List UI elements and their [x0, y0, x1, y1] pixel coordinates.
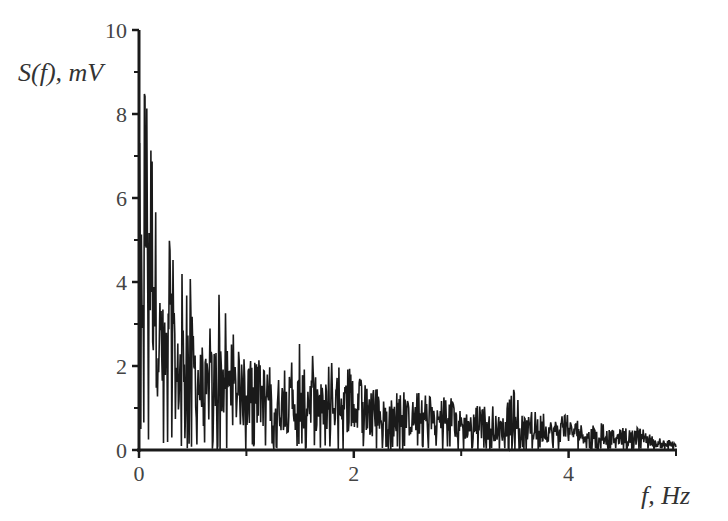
y-tick-label: 6: [116, 186, 127, 211]
y-tick-label: 2: [116, 354, 127, 379]
y-tick-label: 10: [105, 18, 127, 43]
spectrum-line: [139, 94, 676, 449]
spectrum-path: [139, 94, 676, 449]
y-tick-label: 0: [116, 438, 127, 463]
x-tick-label: 4: [563, 461, 574, 486]
x-tick-label: 2: [348, 461, 359, 486]
y-tick-label: 4: [116, 270, 127, 295]
x-axis-label: f, Hz: [641, 481, 690, 511]
y-axis-label: S(f), mV: [18, 58, 103, 88]
x-tick-label: 0: [134, 461, 145, 486]
y-tick-label: 8: [116, 102, 127, 127]
spectrum-chart: 0246810024: [0, 0, 728, 521]
